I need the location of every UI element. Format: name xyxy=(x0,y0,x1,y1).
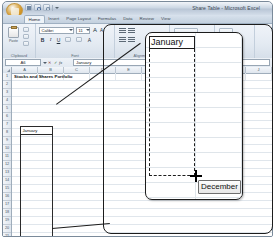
enter-formula-icon[interactable]: ✓ xyxy=(54,60,57,65)
row-header[interactable]: 18 xyxy=(3,209,11,217)
row-header[interactable]: 7 xyxy=(3,121,11,129)
tab-data[interactable]: Data xyxy=(120,15,136,23)
font-color-icon[interactable]: A xyxy=(86,36,93,43)
undo-icon[interactable] xyxy=(34,4,41,11)
grow-font-icon[interactable]: A xyxy=(93,27,97,33)
tab-home[interactable]: Home xyxy=(24,15,45,23)
fill-color-icon[interactable] xyxy=(76,37,82,42)
row-header[interactable]: 20 xyxy=(3,225,11,233)
cell-e1[interactable] xyxy=(116,73,142,80)
row-header[interactable]: 21 xyxy=(3,233,11,236)
cut-icon[interactable] xyxy=(23,27,29,32)
row-header[interactable]: 4 xyxy=(3,97,11,105)
row-header[interactable]: 15 xyxy=(3,185,11,193)
paste-button[interactable]: Paste xyxy=(7,27,20,46)
formula-bar-buttons: ✕ ✓ fx xyxy=(48,60,62,65)
row-header[interactable]: 3 xyxy=(3,89,11,97)
cell-a1-title-text: Stocks and Shares Portfolio xyxy=(14,74,73,79)
row-header[interactable]: 11 xyxy=(3,153,11,161)
tab-page-layout[interactable]: Page Layout xyxy=(63,15,95,23)
row-header[interactable]: 10 xyxy=(3,145,11,153)
row-header[interactable]: 5 xyxy=(3,105,11,113)
paste-label: Paste xyxy=(7,39,20,43)
qat-separator xyxy=(52,5,53,11)
chevron-down-icon[interactable] xyxy=(55,7,59,9)
tab-view[interactable]: View xyxy=(157,15,173,23)
title-bar: Share Table - Microsoft Excel xyxy=(3,2,272,16)
italic-button[interactable]: I xyxy=(47,36,54,43)
ribbon-tab-strip: Home Insert Page Layout Formulas Data Re… xyxy=(3,15,272,24)
insert-function-icon[interactable]: fx xyxy=(59,60,62,65)
cell-j1[interactable] xyxy=(246,73,272,80)
name-box[interactable]: A6 xyxy=(5,59,41,66)
row-header[interactable]: 16 xyxy=(3,193,11,201)
shrink-font-icon[interactable]: A xyxy=(100,28,103,33)
source-start-cell[interactable]: January xyxy=(20,126,53,135)
align-center-icon[interactable] xyxy=(128,37,135,43)
tab-review[interactable]: Review xyxy=(136,15,157,23)
row-header[interactable]: 19 xyxy=(3,217,11,225)
row-header[interactable]: 9 xyxy=(3,137,11,145)
callout-drag-selection xyxy=(149,49,195,176)
row-headers: 1 2 3 4 5 6 7 8 9 10 11 12 13 14 15 16 1… xyxy=(3,73,12,236)
font-size-chevron-down-icon[interactable] xyxy=(86,29,90,31)
quick-access-toolbar xyxy=(25,4,59,11)
bold-button[interactable]: B xyxy=(39,36,46,43)
tab-insert[interactable]: Insert xyxy=(45,15,63,23)
excel-screenshot: Share Table - Microsoft Excel Home Inser… xyxy=(0,0,275,240)
row-header[interactable]: 1 xyxy=(3,73,11,81)
window-title: Share Table - Microsoft Excel xyxy=(192,5,260,11)
row-header[interactable]: 17 xyxy=(3,201,11,209)
ribbon-group-font: Calibri 11 A A B I U A Font xyxy=(36,24,115,58)
copy-icon[interactable] xyxy=(23,34,29,39)
align-middle-icon[interactable] xyxy=(128,28,135,34)
cancel-formula-icon[interactable]: ✕ xyxy=(48,60,51,65)
align-top-icon[interactable] xyxy=(119,28,126,34)
group-label-clipboard: Clipboard xyxy=(3,54,35,58)
paste-icon xyxy=(8,27,19,38)
row-header[interactable]: 14 xyxy=(3,177,11,185)
save-icon[interactable] xyxy=(25,4,32,11)
row-header[interactable]: 13 xyxy=(3,169,11,177)
row-header[interactable]: 12 xyxy=(3,161,11,169)
callout-fill-tooltip: December xyxy=(198,180,241,194)
group-label-font: Font xyxy=(36,54,114,58)
row-header[interactable]: 2 xyxy=(3,81,11,89)
borders-icon[interactable] xyxy=(65,37,71,42)
row-header[interactable]: 6 xyxy=(3,113,11,121)
name-box-chevron-down-icon[interactable] xyxy=(43,62,47,64)
format-painter-icon[interactable] xyxy=(23,41,29,46)
font-name-chevron-down-icon[interactable] xyxy=(69,29,73,31)
magnified-callout: January December xyxy=(145,32,243,200)
align-left-icon[interactable] xyxy=(119,37,126,43)
callout-start-cell[interactable]: January xyxy=(149,36,195,49)
underline-button[interactable]: U xyxy=(55,36,62,43)
redo-icon[interactable] xyxy=(43,4,50,11)
ribbon-group-clipboard: Paste Clipboard xyxy=(3,24,36,58)
row-header[interactable]: 8 xyxy=(3,129,11,137)
tab-formulas[interactable]: Formulas xyxy=(94,15,119,23)
source-drag-selection xyxy=(20,126,53,236)
